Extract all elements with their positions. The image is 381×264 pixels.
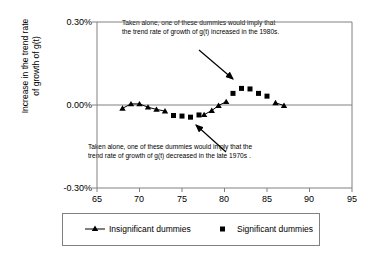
data-point-square (265, 94, 270, 99)
legend-marker-square-icon (213, 224, 233, 234)
legend-label-insignificant: Insignificant dummies (109, 224, 191, 234)
series-insignificant (119, 99, 287, 117)
data-point-triangle (201, 112, 207, 117)
data-series-layer (119, 86, 287, 120)
series-significant (171, 86, 270, 120)
data-point-triangle (223, 99, 229, 104)
legend-entry-insignificant[interactable]: Insignificant dummies (85, 224, 191, 234)
legend-marker-triangle-line-icon (85, 224, 105, 234)
y-axis-ticks (92, 22, 97, 188)
legend-label-significant: Significant dummies (237, 224, 313, 234)
data-point-square (171, 113, 176, 118)
data-point-square (239, 86, 244, 91)
x-axis-ticks (97, 188, 352, 192)
data-point-square (248, 86, 253, 91)
data-point-triangle (119, 105, 125, 110)
data-point-square (256, 91, 261, 96)
data-point-square (180, 114, 185, 119)
bottom-annotation-arrow (196, 125, 226, 152)
legend-entry-significant[interactable]: Significant dummies (213, 224, 313, 234)
data-point-triangle (272, 100, 278, 105)
data-point-square (197, 112, 202, 117)
chart-container: Increase in the trend rate of growth of … (0, 0, 381, 264)
top-annotation-arrow (199, 50, 233, 79)
data-point-square (188, 115, 193, 120)
data-point-square (231, 91, 236, 96)
